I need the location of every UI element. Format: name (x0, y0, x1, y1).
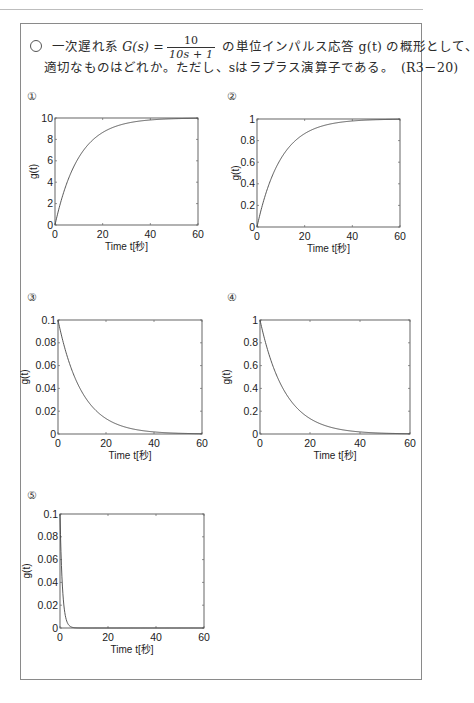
x-tick-label: 60 (198, 631, 210, 643)
response-curve (55, 118, 198, 225)
y-tick-label: 1 (249, 113, 255, 125)
y-tick-label: 0.06 (36, 359, 57, 371)
y-tick-label: 0.08 (36, 336, 57, 348)
plot-frame (55, 118, 198, 225)
transfer-function-label: G(s) = (122, 39, 164, 54)
option-label-3: ③ (27, 291, 37, 304)
option-label-2: ② (227, 90, 237, 103)
y-tick-label: 0.04 (38, 576, 59, 588)
y-tick-label: 10 (41, 112, 53, 124)
chart-option-4: 020406000.20.40.60.81Time t[秒]g(t) (220, 311, 420, 471)
y-tick-label: 0.2 (243, 405, 258, 417)
y-tick-label: 0 (252, 428, 258, 440)
response-curve (58, 320, 202, 434)
y-axis-label: g(t) (21, 564, 32, 579)
x-tick-label: 60 (404, 437, 416, 449)
x-tick-label: 40 (150, 631, 162, 643)
y-tick-label: 0.1 (41, 314, 56, 326)
y-tick-label: 2 (47, 197, 53, 209)
plot-frame (58, 320, 202, 434)
question-line-2: 適切なものはどれか。ただし、sはラプラス演算子である。 (R3－20) (44, 58, 458, 78)
x-axis-label: Time t[秒] (307, 242, 350, 254)
header-rule (0, 9, 423, 10)
response-curve (257, 119, 400, 227)
y-tick-label: 0.6 (243, 359, 258, 371)
x-tick-label: 20 (299, 230, 311, 242)
question-intro: 一次遅れ系 (52, 39, 122, 54)
y-tick-label: 0.8 (240, 134, 255, 146)
y-axis-label: g(t) (230, 166, 241, 181)
x-tick-label: 60 (196, 437, 208, 449)
y-tick-label: 0 (52, 622, 58, 634)
x-tick-label: 20 (304, 437, 316, 449)
response-curve (60, 514, 204, 628)
x-tick-label: 60 (394, 230, 406, 242)
circle-marker-icon (30, 40, 42, 52)
y-tick-label: 0.02 (38, 599, 59, 611)
y-tick-label: 0.04 (36, 382, 57, 394)
x-axis-label: Time t[秒] (111, 643, 154, 655)
option-label-5: ⑤ (27, 489, 37, 502)
y-tick-label: 0 (47, 219, 53, 231)
x-tick-label: 40 (354, 437, 366, 449)
plot-frame (257, 119, 400, 227)
chart-option-2: 020406000.20.40.60.81Time t[秒]g(t) (220, 110, 420, 270)
x-axis-label: Time t[秒] (109, 449, 152, 461)
question-line-1: 一次遅れ系 G(s) =1010s + 1 の単位インパルス応答 g(t) の概… (30, 34, 474, 61)
chart-option-3: 020406000.020.040.060.080.1Time t[秒]g(t) (20, 311, 220, 471)
y-tick-label: 0.8 (243, 336, 258, 348)
chart-option-1: 02040600246810Time t[秒]g(t) (20, 110, 220, 270)
y-tick-label: 0.2 (240, 199, 255, 211)
x-tick-label: 20 (102, 631, 114, 643)
x-tick-label: 40 (346, 230, 358, 242)
y-tick-label: 0.1 (43, 508, 58, 520)
y-tick-label: 4 (47, 176, 53, 188)
y-axis-label: g(t) (20, 370, 30, 385)
y-tick-label: 8 (47, 133, 53, 145)
transfer-function-fraction: 1010s + 1 (167, 34, 215, 61)
x-axis-label: Time t[秒] (105, 240, 148, 252)
x-tick-label: 40 (144, 228, 156, 240)
response-curve (260, 320, 410, 434)
y-tick-label: 0.6 (240, 156, 255, 168)
plot-frame (260, 320, 410, 434)
x-tick-label: 40 (148, 437, 160, 449)
y-tick-label: 0.4 (243, 382, 258, 394)
fraction-numerator: 10 (167, 34, 215, 48)
y-tick-label: 0.06 (38, 553, 59, 565)
x-tick-label: 20 (97, 228, 109, 240)
y-tick-label: 0 (50, 428, 56, 440)
y-tick-label: 0.08 (38, 530, 59, 542)
option-label-1: ① (27, 90, 37, 103)
question-continuation: の単位インパルス応答 g(t) の概形として、 (218, 39, 474, 54)
y-axis-label: g(t) (28, 164, 39, 179)
chart-option-5: 020406000.020.040.060.080.1Time t[秒]g(t) (20, 505, 220, 665)
y-tick-label: 1 (252, 314, 258, 326)
y-tick-label: 6 (47, 154, 53, 166)
y-tick-label: 0.02 (36, 405, 57, 417)
x-axis-label: Time t[秒] (314, 449, 357, 461)
plot-frame (60, 514, 204, 628)
x-tick-label: 60 (192, 228, 204, 240)
option-label-4: ④ (227, 291, 237, 304)
y-tick-label: 0 (249, 221, 255, 233)
y-tick-label: 0.4 (240, 177, 255, 189)
x-tick-label: 20 (100, 437, 112, 449)
y-axis-label: g(t) (221, 370, 232, 385)
